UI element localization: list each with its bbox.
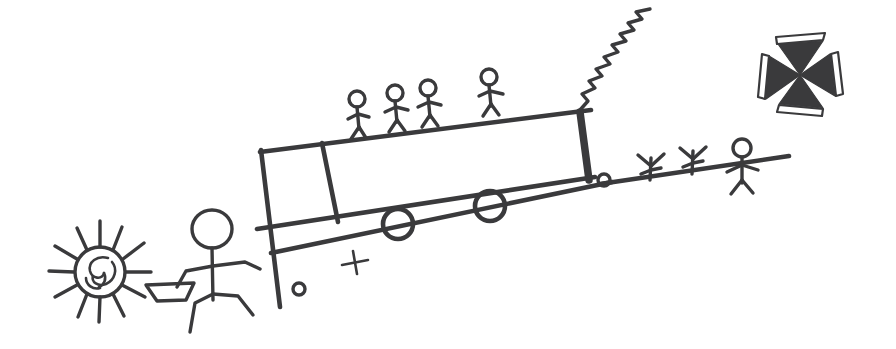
- roof-stick-figure: [348, 91, 369, 139]
- sun-spiral-icon: [86, 257, 115, 288]
- maltese-cross: [758, 33, 843, 116]
- wagon-roof: [260, 110, 591, 152]
- right-ground-line: [600, 156, 789, 184]
- figure-leg: [731, 180, 742, 194]
- roof-stick-figure: [479, 69, 503, 116]
- sun-rays: [49, 221, 151, 322]
- roof-stick-figure: [385, 85, 408, 132]
- roof-stick-figure: [418, 80, 441, 127]
- figure-torso: [212, 248, 213, 300]
- drawing-canvas: Stick-figure drawing of a train on an in…: [0, 0, 896, 349]
- figure-legs: [190, 294, 253, 332]
- small-circle-left: [293, 283, 305, 295]
- figure-head: [192, 210, 232, 248]
- large-stick-figure: [177, 210, 260, 332]
- plus-mark: [342, 251, 368, 274]
- boat-symbol: [146, 283, 194, 301]
- sun-symbol: [49, 221, 151, 322]
- sun-disc: [75, 247, 125, 297]
- zigzag-line: [580, 9, 650, 110]
- line-drawing: [0, 0, 896, 349]
- roof-stick-figures: [348, 69, 503, 139]
- wagon-body: [257, 110, 595, 307]
- figure-leg: [742, 180, 753, 193]
- rear-post: [580, 112, 589, 180]
- figure-head: [733, 139, 751, 157]
- wagon-divider: [322, 143, 338, 222]
